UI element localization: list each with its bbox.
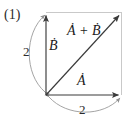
dimension-bottom-label: 2 xyxy=(79,103,86,116)
vector-sum-label: Ȧ + Ḃ xyxy=(67,24,101,38)
figure-canvas xyxy=(0,0,136,121)
dimension-left-label: 2 xyxy=(23,45,30,58)
dimension-arc-left xyxy=(29,15,45,92)
vector-addition-figure: (1) Ḃ Ȧ Ȧ + Ḃ 2 2 xyxy=(0,0,136,121)
vector-b-label: Ḃ xyxy=(49,39,58,53)
equation-number-label: (1) xyxy=(4,8,20,22)
vector-a-label: Ȧ xyxy=(77,74,86,88)
